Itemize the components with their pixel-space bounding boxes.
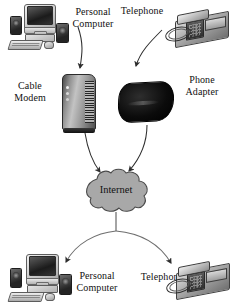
monitor-screen-icon: [29, 256, 56, 276]
connector-internet-to-telephone-bottom: [116, 231, 171, 263]
label-cable-modem: Cable Modem: [2, 80, 58, 103]
monitor-screen-icon: [27, 6, 53, 25]
cable-modem-icon: [62, 74, 96, 130]
mouse-icon: [44, 41, 54, 49]
cable-modem-base: [63, 128, 94, 133]
keyboard-icon: [7, 292, 44, 302]
speaker-left-icon: [10, 16, 22, 35]
connector-telephone-top-to-phone-adapter: [136, 30, 162, 66]
phone-adapter-icon: [118, 82, 174, 122]
internet-cloud-node: Internet: [78, 166, 154, 214]
mouse-icon: [45, 293, 55, 301]
keyboard-icon: [7, 40, 43, 50]
label-phone-adapter: Phone Adapter: [172, 74, 232, 97]
connector-phone-adapter-to-internet: [129, 125, 147, 171]
speaker-left-icon: [10, 268, 22, 288]
desk-telephone-icon-bottom: [166, 258, 232, 304]
label-pc-bottom: Personal Computer: [62, 270, 132, 293]
label-internet: Internet: [78, 184, 154, 195]
desk-telephone-icon-top: [165, 6, 231, 52]
network-diagram: Personal Computer Telephone Cable Modem …: [0, 0, 233, 307]
connector-pc-top-to-cable-modem: [78, 27, 82, 68]
cable-modem-vents: [85, 81, 94, 124]
